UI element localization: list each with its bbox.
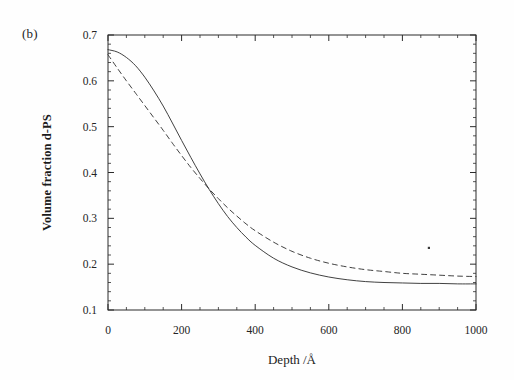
x-tick-label: 1000 [465, 324, 488, 336]
series-solid-curve [108, 50, 476, 284]
y-tick-label: 0.7 [83, 29, 98, 41]
y-tick-label: 0.3 [83, 212, 98, 224]
x-tick-label: 800 [394, 324, 412, 336]
y-tick-label: 0.5 [83, 121, 98, 133]
plot-area: 0.10.20.30.40.50.60.7 02004006008001000 [0, 0, 514, 380]
y-tick-label: 0.2 [83, 258, 98, 270]
data-series-layer [108, 50, 476, 284]
y-tick-label: 0.6 [83, 75, 98, 87]
x-tick-labels: 02004006008001000 [105, 324, 488, 336]
x-tick-label: 0 [105, 324, 111, 336]
axis-frame [108, 35, 476, 310]
plot-frame-box [108, 35, 476, 310]
y-tick-labels: 0.10.20.30.40.50.60.7 [83, 29, 98, 316]
figure-panel: (b) Volume fraction d-PS Depth /Å 0.10.2… [0, 0, 514, 380]
minor-ticks [108, 35, 476, 310]
x-tick-label: 400 [247, 324, 265, 336]
y-tick-label: 0.1 [83, 304, 98, 316]
series-dashed-curve [108, 55, 476, 277]
annotation-scan-speck [428, 247, 430, 249]
major-ticks [108, 35, 476, 310]
y-tick-label: 0.4 [83, 167, 98, 179]
x-tick-label: 200 [173, 324, 191, 336]
x-tick-label: 600 [320, 324, 338, 336]
annotation-layer [428, 247, 430, 249]
